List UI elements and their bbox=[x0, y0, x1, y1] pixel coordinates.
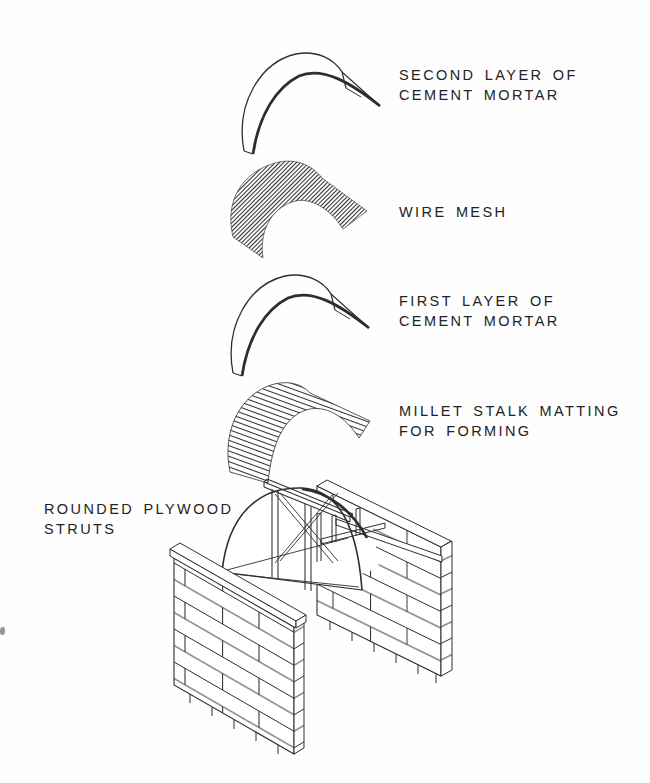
label-line: STRUTS bbox=[44, 520, 233, 540]
label-line: WIRE MESH bbox=[399, 203, 507, 223]
label-millet-stalk-matting: MILLET STALK MATTING FOR FORMING bbox=[399, 402, 621, 441]
label-rounded-plywood-struts: ROUNDED PLYWOOD STRUTS bbox=[44, 500, 233, 539]
label-first-cement-mortar: FIRST LAYER OF CEMENT MORTAR bbox=[399, 292, 560, 331]
label-line: SECOND LAYER OF bbox=[399, 66, 578, 86]
second-mortar-shell-drawing bbox=[242, 53, 380, 154]
first-mortar-shell-drawing bbox=[231, 275, 369, 376]
diagram-page: SECOND LAYER OF CEMENT MORTAR WIRE MESH … bbox=[0, 0, 650, 783]
label-wire-mesh: WIRE MESH bbox=[399, 203, 507, 223]
label-line: ROUNDED PLYWOOD bbox=[44, 500, 233, 520]
label-line: CEMENT MORTAR bbox=[399, 312, 560, 332]
label-line: FIRST LAYER OF bbox=[399, 292, 560, 312]
label-line: MILLET STALK MATTING bbox=[399, 402, 621, 422]
wire-mesh-drawing bbox=[231, 161, 367, 258]
label-line: FOR FORMING bbox=[399, 422, 621, 442]
page-edge-artifact bbox=[0, 627, 5, 635]
millet-matting-drawing bbox=[228, 383, 370, 483]
label-second-cement-mortar: SECOND LAYER OF CEMENT MORTAR bbox=[399, 66, 578, 105]
vault-construction-illustration bbox=[0, 0, 650, 783]
label-line: CEMENT MORTAR bbox=[399, 86, 578, 106]
